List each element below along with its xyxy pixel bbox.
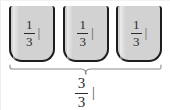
cup-2-fraction-stack: 1 3 — [77, 18, 88, 48]
cup-3-fraction: 1 3 | — [131, 18, 147, 48]
cup-2: 1 3 | — [63, 6, 109, 62]
cup-2-fraction: 1 3 | — [77, 18, 93, 48]
brace-icon — [9, 64, 162, 76]
cup-2-unit-mark: | — [91, 27, 93, 39]
cup-1-unit-mark: | — [38, 27, 40, 39]
cup-3: 1 3 | — [116, 6, 162, 62]
cup-3-unit-mark: | — [145, 27, 147, 39]
cup-1-fraction-stack: 1 3 — [24, 18, 35, 48]
total-unit-mark: | — [92, 86, 95, 100]
total-brace — [9, 64, 162, 76]
cup-3-denominator: 3 — [132, 35, 141, 49]
cup-2-numerator: 1 — [79, 18, 88, 32]
total-label: 3 3 | — [0, 76, 170, 110]
cup-group: 1 3 | 1 3 | 1 3 — [9, 6, 162, 62]
total-fraction: 3 3 | — [75, 76, 95, 110]
cup-2-denominator: 3 — [79, 35, 88, 49]
cup-3-fraction-stack: 1 3 — [131, 18, 142, 48]
cup-3-numerator: 1 — [132, 18, 141, 32]
total-fraction-stack: 3 3 — [75, 76, 88, 110]
cup-1-fraction: 1 3 | — [24, 18, 40, 48]
total-numerator: 3 — [77, 76, 87, 92]
cup-1-denominator: 3 — [25, 35, 34, 49]
fraction-diagram: 1 3 | 1 3 | 1 3 — [0, 0, 170, 110]
cup-1-numerator: 1 — [25, 18, 34, 32]
total-denominator: 3 — [77, 95, 87, 110]
cup-1: 1 3 | — [9, 6, 55, 62]
